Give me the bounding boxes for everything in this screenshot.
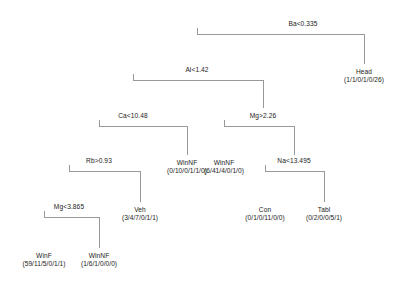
leaf-counts-label: (1/1/0/1/0/26) <box>344 76 384 84</box>
tree-connector-lines <box>0 0 400 289</box>
leaf-node-winnf-a: WinNF (0/10/0/1/1/0) <box>167 159 207 175</box>
leaf-node-winf: WinF (59/11/5/0/1/1) <box>22 252 65 268</box>
leaf-node-winnf-c: WinNF (1/6/1/0/0/0) <box>81 252 117 268</box>
leaf-counts-label: (0/1/0/11/0/0) <box>245 214 284 222</box>
split-node-ba: Ba<0.335 <box>286 20 319 28</box>
split-node-mg-lt: Mg<3.865 <box>52 203 86 211</box>
leaf-node-head: Head (1/1/0/1/0/26) <box>344 68 384 84</box>
leaf-node-tabl: Tabl (0/2/0/0/5/1) <box>306 206 342 222</box>
split-node-mg-gt: Mg>2.26 <box>248 112 279 120</box>
leaf-counts-label: (1/6/1/0/0/0) <box>81 260 117 268</box>
split-node-na: Na<13.495 <box>275 157 312 165</box>
leaf-class-label: Tabl <box>306 206 342 214</box>
edge-ca <box>99 120 187 155</box>
leaf-counts-label: (59/11/5/0/1/1) <box>22 260 65 268</box>
leaf-class-label: Head <box>344 68 384 76</box>
edge-rb <box>69 165 140 202</box>
leaf-class-label: Veh <box>122 206 158 214</box>
split-node-al: Al<1.42 <box>183 66 210 74</box>
leaf-node-con: Con (0/1/0/11/0/0) <box>245 206 284 222</box>
leaf-class-label: WinF <box>22 252 65 260</box>
split-node-ca: Ca<10.48 <box>116 112 150 120</box>
leaf-counts-label: (6/41/4/0/1/0) <box>204 167 244 175</box>
edge-al <box>133 74 263 108</box>
leaf-node-winnf-b: WinNF (6/41/4/0/1/0) <box>204 159 244 175</box>
leaf-class-label: WinNF <box>81 252 117 260</box>
leaf-class-label: WinNF <box>204 159 244 167</box>
leaf-class-label: Con <box>245 206 284 214</box>
decision-tree-figure: Ba<0.335 Al<1.42 Head (1/1/0/1/0/26) Ca<… <box>0 0 400 289</box>
leaf-counts-label: (0/10/0/1/1/0) <box>167 167 207 175</box>
edge-root <box>197 28 364 64</box>
leaf-node-veh: Veh (3/4/7/0/1/1) <box>122 206 158 222</box>
leaf-counts-label: (0/2/0/0/5/1) <box>306 214 342 222</box>
leaf-counts-label: (3/4/7/0/1/1) <box>122 214 158 222</box>
edge-mg3865 <box>44 211 99 248</box>
edge-na <box>265 165 324 202</box>
leaf-class-label: WinNF <box>167 159 207 167</box>
edge-mg226 <box>224 120 294 155</box>
split-node-rb: Rb>0.93 <box>84 157 114 165</box>
